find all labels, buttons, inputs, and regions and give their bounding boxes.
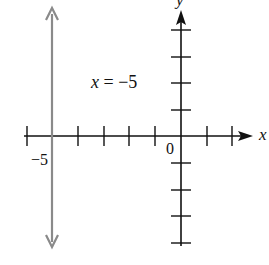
equation-value: = −5 xyxy=(99,72,137,92)
x-axis-label: x xyxy=(259,126,267,143)
y-axis-label: y xyxy=(176,0,184,8)
coordinate-plane xyxy=(0,0,269,265)
equation-label: x = −5 xyxy=(91,73,137,91)
origin-label: 0 xyxy=(166,141,174,157)
x-axis xyxy=(24,126,253,146)
y-axis xyxy=(171,10,191,246)
line-x-equals-neg5 xyxy=(46,8,58,247)
equation-variable: x xyxy=(91,72,99,92)
tick-label-neg5: −5 xyxy=(31,152,48,168)
